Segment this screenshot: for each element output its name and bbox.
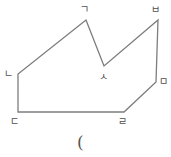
polygon-outline (18, 20, 158, 112)
vertex-label-nieun: ㄴ (4, 69, 13, 79)
vertex-label-siot: ㅅ (99, 72, 108, 82)
vertex-label-rieul: ㄹ (118, 117, 127, 127)
polygon-diagram (0, 0, 171, 157)
figure-canvas: ㄱ ㅅ ㅂ ㅁ ㄹ ㄷ ㄴ ( (0, 0, 171, 157)
vertex-label-giyeok: ㄱ (80, 5, 89, 15)
vertex-label-mieum: ㅁ (159, 77, 168, 87)
vertex-label-bieup: ㅂ (151, 5, 160, 15)
vertex-label-digeut: ㄷ (10, 117, 19, 127)
caption-open-paren: ( (77, 134, 84, 151)
